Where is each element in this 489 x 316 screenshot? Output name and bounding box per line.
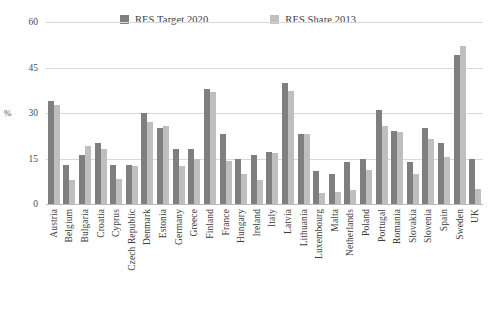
x-axis-label: Latvia	[283, 209, 293, 234]
x-axis-label: Malta	[330, 209, 340, 232]
bar-group	[62, 22, 78, 204]
bar-group	[467, 22, 483, 204]
x-axis-label: UK	[470, 209, 480, 223]
x-axis-label-cell: Bulgaria	[77, 207, 93, 315]
bar	[241, 174, 247, 204]
bar	[350, 190, 356, 204]
bar	[413, 174, 419, 204]
x-axis-label: Poland	[361, 209, 371, 236]
bar-group	[155, 22, 171, 204]
y-axis-title: %	[4, 108, 12, 118]
x-axis-label-cell: Malta	[327, 207, 343, 315]
x-axis-label-cell: Ireland	[249, 207, 265, 315]
bar-group	[140, 22, 156, 204]
x-axis-label-cell: Italy	[265, 207, 281, 315]
plot-area	[46, 22, 483, 205]
x-axis-label-cell: Latvia	[280, 207, 296, 315]
bar	[397, 132, 403, 204]
bar	[226, 161, 232, 204]
bar-group	[171, 22, 187, 204]
bar-group	[249, 22, 265, 204]
bar-group	[421, 22, 437, 204]
x-axis-label-cell: Romania	[389, 207, 405, 315]
bar-group	[218, 22, 234, 204]
bar	[335, 192, 341, 204]
x-axis-label-cell: Finland	[202, 207, 218, 315]
bar-group	[46, 22, 62, 204]
bar	[288, 91, 294, 204]
x-axis-label: Slovakia	[408, 209, 418, 243]
x-axis-label: Austria	[49, 209, 59, 238]
bar-group	[202, 22, 218, 204]
bar	[85, 146, 91, 204]
y-tick-label-45: 45	[29, 63, 39, 73]
x-axis-label: Denmark	[142, 209, 152, 245]
bar	[304, 134, 310, 204]
x-axis-label-cell: Slovakia	[405, 207, 421, 315]
x-axis-label: Italy	[267, 209, 277, 227]
bar-group	[343, 22, 359, 204]
x-axis-label: Finland	[205, 209, 215, 239]
x-axis-label-cell: Spain	[436, 207, 452, 315]
bar-group	[233, 22, 249, 204]
x-axis-label: Croatia	[96, 209, 106, 238]
bar-group	[186, 22, 202, 204]
x-axis-labels: AustriaBelgiumBulgariaCroatiaCyprusCzech…	[46, 207, 483, 315]
x-axis-label: Sweden	[455, 209, 465, 240]
bar	[116, 179, 122, 204]
bar-group	[405, 22, 421, 204]
x-axis-label: Romania	[392, 209, 402, 244]
bar-group	[358, 22, 374, 204]
x-axis-label-cell: Croatia	[93, 207, 109, 315]
bar	[101, 149, 107, 204]
bar	[444, 157, 450, 204]
x-axis-label-cell: UK	[467, 207, 483, 315]
y-tick-label-30: 30	[29, 108, 39, 118]
bar-group	[77, 22, 93, 204]
bar-group	[389, 22, 405, 204]
x-axis-label: Cyprus	[111, 209, 121, 237]
x-axis-label-cell: Slovenia	[421, 207, 437, 315]
y-tick-label-60: 60	[29, 17, 39, 27]
x-axis-label: Luxembourg	[314, 209, 324, 259]
x-axis-label: Czech Republic	[127, 209, 137, 271]
bar	[319, 193, 325, 204]
bar	[147, 122, 153, 205]
bar	[179, 166, 185, 204]
x-axis-label: Hungary	[236, 209, 246, 243]
res-share-target-bar-chart: RES Target 2020 RES Share 2013 015304560…	[0, 0, 489, 316]
bar	[382, 126, 388, 204]
x-axis-label-cell: Cyprus	[108, 207, 124, 315]
x-axis-label-cell: Portugal	[374, 207, 390, 315]
bar-group	[93, 22, 109, 204]
x-axis-label: Germany	[174, 209, 184, 245]
bar	[257, 180, 263, 204]
bar	[210, 92, 216, 204]
x-axis-label: Ireland	[252, 209, 262, 237]
x-axis-label: Netherlands	[345, 209, 355, 256]
y-axis: 015304560%	[0, 22, 44, 206]
x-axis-label: Portugal	[377, 209, 387, 242]
x-axis-label-cell: Czech Republic	[124, 207, 140, 315]
x-axis-label-cell: Poland	[358, 207, 374, 315]
x-axis-label: Lithuania	[299, 209, 309, 246]
bar-group	[327, 22, 343, 204]
bar	[428, 139, 434, 204]
bar	[460, 46, 466, 204]
bar-group	[436, 22, 452, 204]
bar-group	[108, 22, 124, 204]
bar-group	[296, 22, 312, 204]
bar-group	[124, 22, 140, 204]
x-axis-label: Bulgaria	[80, 209, 90, 243]
x-axis-label-cell: Estonia	[155, 207, 171, 315]
axis-baseline	[46, 204, 483, 205]
x-axis-label: Belgium	[64, 209, 74, 242]
x-axis-label-cell: Austria	[46, 207, 62, 315]
y-tick-label-15: 15	[29, 154, 39, 164]
x-axis-label-cell: France	[218, 207, 234, 315]
bar-group	[452, 22, 468, 204]
bar-group	[374, 22, 390, 204]
x-axis-label-cell: Denmark	[140, 207, 156, 315]
x-axis-label-cell: Germany	[171, 207, 187, 315]
bar	[366, 170, 372, 204]
